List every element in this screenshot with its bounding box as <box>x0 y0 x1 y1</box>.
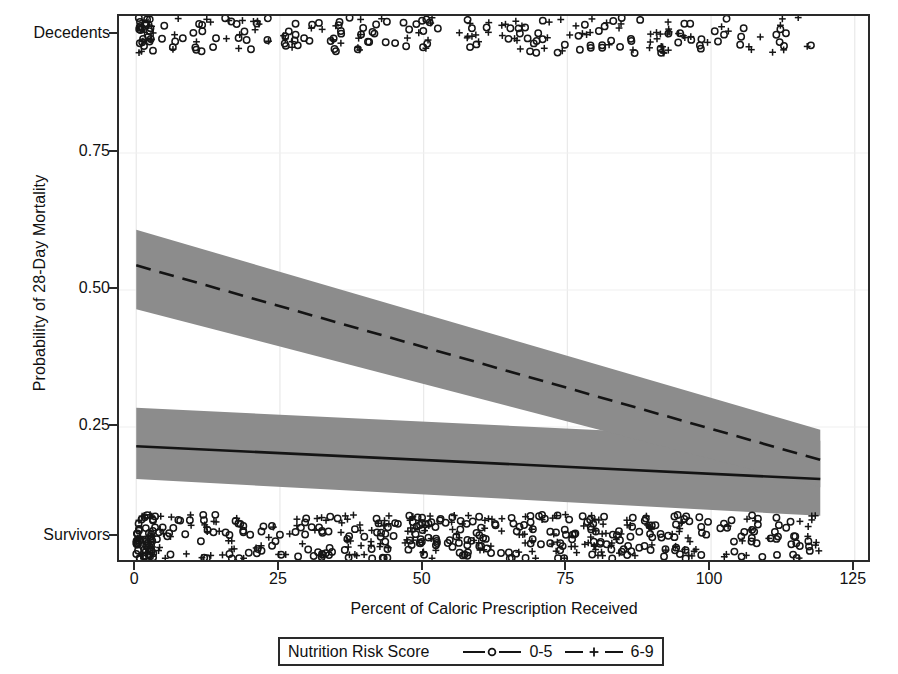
rug-point-circle <box>808 42 814 48</box>
rug-point-circle <box>579 513 585 519</box>
rug-point-circle <box>405 546 411 552</box>
y-axis-tick-label: 0.75 <box>79 142 110 160</box>
legend-key-dashed-plus-icon <box>563 645 625 659</box>
y-axis-tick-label: Survivors <box>43 526 110 544</box>
y-axis-tick <box>109 287 117 289</box>
rug-point-circle <box>759 554 765 560</box>
rug-point-circle <box>636 529 642 535</box>
rug-point-circle <box>721 31 727 37</box>
rug-point-circle <box>773 514 779 520</box>
y-axis-tick <box>109 424 117 426</box>
legend-label-1: 6-9 <box>631 643 654 661</box>
rug-point-circle <box>610 18 616 24</box>
rug-point-circle <box>738 553 744 559</box>
rug-point-circle <box>476 514 482 520</box>
rug-point-circle <box>507 25 513 31</box>
rug-point-circle <box>243 37 249 43</box>
rug-point-circle <box>705 519 711 525</box>
rug-point-circle <box>373 21 379 27</box>
rug-point-circle <box>235 35 241 41</box>
rug-point-circle <box>627 534 633 540</box>
rug-point-circle <box>737 42 743 48</box>
x-axis-tick <box>421 562 423 570</box>
rug-point-circle <box>199 28 205 34</box>
rug-point-circle <box>628 548 634 554</box>
legend-entry-1[interactable]: 6-9 <box>563 643 654 661</box>
x-axis-tick-label: 25 <box>269 570 287 588</box>
rug-point-circle <box>432 524 438 530</box>
rug-point-circle <box>673 521 679 527</box>
rug-point-circle <box>698 552 704 558</box>
rug-point-circle <box>610 531 616 537</box>
rug-point-circle <box>369 555 375 561</box>
rug-point-circle <box>248 46 254 52</box>
rug-point-circle <box>723 16 729 22</box>
x-axis-title: Percent of Caloric Prescription Received <box>118 600 870 618</box>
x-axis-tick-label: 75 <box>556 570 574 588</box>
rug-point-circle <box>577 47 583 53</box>
rug-point-circle <box>306 38 312 44</box>
rug-point-circle <box>390 533 396 539</box>
y-axis-tick-label: 0.25 <box>79 416 110 434</box>
rug-point-circle <box>535 30 541 36</box>
x-axis-tick-label: 100 <box>696 570 723 588</box>
y-axis-tick <box>109 32 117 34</box>
rug-point-circle <box>334 515 340 521</box>
rug-point-circle <box>292 21 298 27</box>
rug-point-circle <box>392 40 398 46</box>
x-axis-tick <box>277 562 279 570</box>
rug-point-circle <box>424 41 430 47</box>
rug-point-circle <box>776 522 782 528</box>
rug-point-circle <box>637 17 643 23</box>
legend-label-0: 0-5 <box>529 643 552 661</box>
rug-point-circle <box>246 550 252 556</box>
x-axis-tick <box>708 562 710 570</box>
rug-point-circle <box>787 519 793 525</box>
rug-point-circle <box>150 47 156 53</box>
plot-area <box>117 14 870 562</box>
rug-point-circle <box>449 544 455 550</box>
rug-point-circle <box>361 534 367 540</box>
rug-point-circle <box>210 529 216 535</box>
rug-point-circle <box>198 538 204 544</box>
x-axis-tick <box>852 562 854 570</box>
y-axis-tick-label: Decedents <box>34 24 111 42</box>
rug-point-circle <box>505 36 511 42</box>
rug-point-circle <box>715 38 721 44</box>
rug-point-circle <box>696 514 702 520</box>
rug-point-circle <box>617 44 623 50</box>
rug-point-circle <box>346 16 352 21</box>
rug-point-circle <box>783 524 789 530</box>
rug-point-circle <box>360 25 366 31</box>
rug-point-circle <box>582 22 588 28</box>
rug-point-circle <box>302 519 308 525</box>
legend-key-solid-circle-icon <box>461 645 523 659</box>
rug-point-circle <box>527 513 533 519</box>
y-axis-tick <box>109 150 117 152</box>
rug-point-circle <box>738 34 744 40</box>
rug-point-circle <box>309 21 315 27</box>
rug-point-circle <box>772 529 778 535</box>
rug-point-circle <box>470 518 476 524</box>
rug-point-circle <box>265 16 271 22</box>
rug-point-circle <box>675 39 681 45</box>
rug-point-circle <box>630 514 636 520</box>
rug-point-circle <box>182 531 188 537</box>
legend-entry-0[interactable]: 0-5 <box>461 643 552 661</box>
rug-point-circle <box>533 49 539 55</box>
rug-point-circle <box>190 30 196 36</box>
rug-point-circle <box>161 23 167 29</box>
x-axis-tick-label: 125 <box>839 570 866 588</box>
rug-point-circle <box>776 39 782 45</box>
rug-point-circle <box>435 25 441 31</box>
rug-point-circle <box>712 28 718 34</box>
rug-point-circle <box>400 19 406 25</box>
plot-overlay <box>119 16 870 562</box>
rug-point-circle <box>527 519 533 525</box>
rug-point-circle <box>172 38 178 44</box>
rug-point-circle <box>524 35 530 41</box>
rug-point-circle <box>406 26 412 32</box>
rug-point-circle <box>609 555 615 561</box>
rug-point-circle <box>159 36 165 42</box>
legend-title: Nutrition Risk Score <box>288 643 451 661</box>
